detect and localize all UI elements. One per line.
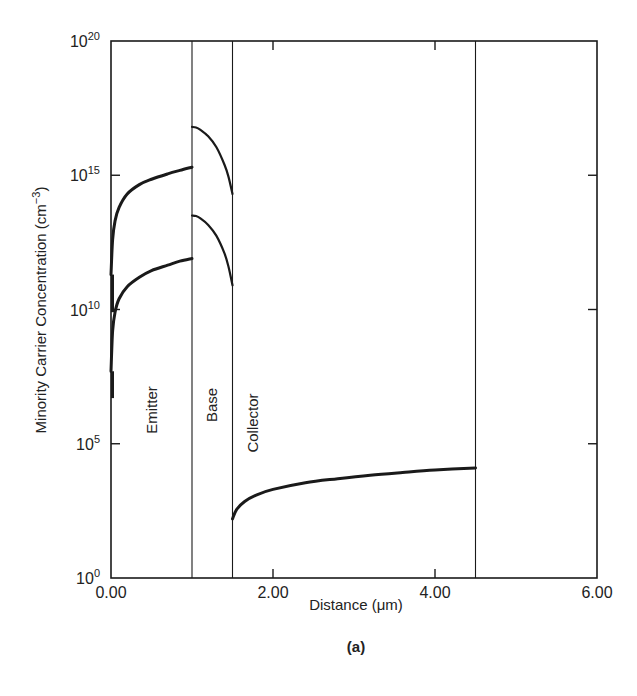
curve-base-lower bbox=[192, 216, 233, 286]
y-tick-base: 10 bbox=[76, 570, 94, 587]
y-tick-label: 1010 bbox=[70, 299, 100, 319]
x-tick-label: 2.00 bbox=[257, 584, 288, 601]
plot-border bbox=[111, 41, 597, 578]
y-tick-base: 10 bbox=[76, 436, 94, 453]
curve-emitter-lower bbox=[111, 258, 192, 371]
y-axis-title-sup: −3 bbox=[30, 192, 42, 205]
y-tick-exponent: 15 bbox=[88, 164, 100, 176]
y-axis-title: Minority Carrier Concentration (cm−3) bbox=[30, 187, 49, 434]
y-axis-title-close: ) bbox=[32, 187, 49, 192]
plot-frame bbox=[111, 41, 597, 578]
y-tick-base: 10 bbox=[70, 33, 88, 50]
curve-base-upper bbox=[192, 127, 233, 194]
figure-caption: (a) bbox=[347, 638, 365, 655]
y-tick-exponent: 0 bbox=[94, 567, 100, 579]
curve-collector bbox=[233, 468, 476, 519]
x-tick-label: 6.00 bbox=[581, 584, 612, 601]
region-label-emitter: Emitter bbox=[143, 386, 160, 434]
y-tick-label: 1015 bbox=[70, 164, 100, 184]
y-axis-tick-labels: 100105101010151020 bbox=[70, 30, 100, 587]
x-axis-title: Distance (μm) bbox=[309, 596, 403, 613]
y-tick-exponent: 5 bbox=[94, 433, 100, 445]
axis-ticks bbox=[111, 41, 597, 578]
region-labels: EmitterBaseCollector bbox=[143, 386, 261, 452]
y-tick-label: 105 bbox=[76, 433, 100, 453]
y-tick-exponent: 10 bbox=[88, 299, 100, 311]
y-tick-base: 10 bbox=[70, 167, 88, 184]
y-axis-title-text: Minority Carrier Concentration (cm bbox=[32, 204, 49, 433]
region-label-collector: Collector bbox=[244, 393, 261, 452]
y-tick-base: 10 bbox=[70, 302, 88, 319]
chart-figure: 100105101010151020 0.002.004.006.00 Emit… bbox=[0, 0, 637, 696]
y-tick-label: 1020 bbox=[70, 30, 100, 50]
curve-emitter-upper bbox=[111, 167, 192, 274]
x-tick-label: 0.00 bbox=[95, 584, 126, 601]
y-tick-exponent: 20 bbox=[88, 30, 100, 42]
region-label-base: Base bbox=[203, 388, 220, 422]
concentration-curves bbox=[111, 127, 476, 519]
x-tick-label: 4.00 bbox=[419, 584, 450, 601]
region-boundaries bbox=[192, 41, 476, 578]
